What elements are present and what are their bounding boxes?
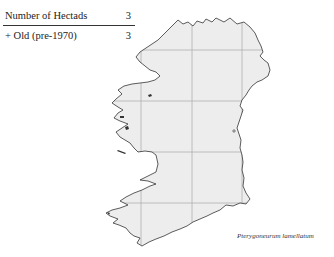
legend-old-label: + Old (pre-1970) <box>3 29 77 42</box>
legend-total-value: 3 <box>126 9 135 22</box>
legend-old-value: 3 <box>126 29 135 42</box>
land-fill <box>106 18 270 246</box>
species-name: Pterygoneurum lamellatum <box>237 232 314 240</box>
legend-total-label: Number of Hectads <box>3 9 87 22</box>
map-legend: Number of Hectads 3 + Old (pre-1970) 3 <box>3 9 135 42</box>
legend-total-row: Number of Hectads 3 <box>3 9 135 26</box>
legend-old-row: + Old (pre-1970) 3 <box>3 29 135 42</box>
